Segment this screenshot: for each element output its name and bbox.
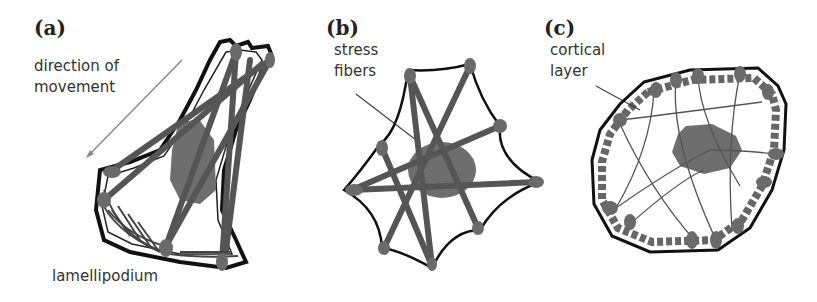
stress-fibers-label: stress fibers xyxy=(334,40,378,82)
panel-label-a: (a) xyxy=(34,16,66,40)
migrating-cell-drawing xyxy=(0,0,280,302)
panel-label-c: (c) xyxy=(544,16,575,40)
stress-fibers-pointer xyxy=(356,94,416,140)
panel-label-b: (b) xyxy=(326,16,359,40)
panel-a: (a) direction of movement lamellipodium xyxy=(0,0,280,302)
cortical-layer-label: cortical layer xyxy=(550,40,605,82)
panel-c: (c) cortical layer xyxy=(540,0,817,302)
direction-of-movement-label: direction of movement xyxy=(34,56,119,98)
panel-b: (b) stress fibers xyxy=(300,0,560,302)
lamellipodium-label: lamellipodium xyxy=(52,266,158,287)
